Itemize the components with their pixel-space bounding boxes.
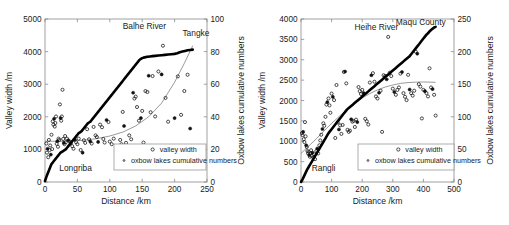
- scatter-point: [86, 128, 89, 131]
- scatter-point: [411, 94, 414, 97]
- y-axis-title: Valley width /m: [257, 72, 267, 129]
- x-axis-title: Distance /km: [101, 196, 151, 206]
- scatter-point: [320, 127, 323, 130]
- scatter-point: [186, 73, 189, 76]
- scatter-point: [334, 83, 337, 86]
- scatter-point: [147, 74, 150, 77]
- x-tick-label: 400: [416, 185, 430, 194]
- scatter-point: [47, 156, 50, 159]
- scatter-point: [318, 139, 321, 142]
- panel-balhe-river: 0501001502002500100020003000400050000204…: [0, 0, 255, 225]
- legend-label: oxbow lakes cumulative numbers: [131, 156, 237, 165]
- scatter-point: [394, 93, 397, 96]
- scatter-point: [301, 130, 304, 133]
- scatter-point: [325, 101, 328, 104]
- y-tick-label: 2000: [279, 97, 298, 106]
- legend-label: oxbow lakes cumulative numbers: [375, 156, 481, 165]
- scatter-point: [107, 120, 110, 123]
- scatter-point: [151, 75, 154, 78]
- x-tick-label: 100: [324, 185, 338, 194]
- scatter-point: [50, 133, 53, 136]
- scatter-point: [154, 115, 157, 118]
- dual-panel-river-figure: 0501001502002500100020003000400050000204…: [0, 0, 509, 225]
- y-tick-label: 1000: [279, 137, 298, 146]
- scatter-point: [54, 115, 57, 118]
- scatter-point: [160, 73, 163, 76]
- scatter-point: [372, 80, 375, 83]
- scatter-point: [180, 113, 183, 116]
- scatter-point: [389, 75, 392, 78]
- scatter-point: [326, 97, 329, 100]
- scatter-point: [400, 70, 403, 73]
- scatter-point: [62, 137, 65, 140]
- y2-tick-label: 250: [457, 15, 471, 24]
- scatter-point: [304, 135, 307, 138]
- valley-width-scatter: [45, 44, 192, 159]
- scatter-point: [132, 91, 135, 94]
- scatter-point: [415, 52, 418, 55]
- x-axis-title: Distance /km: [352, 196, 402, 206]
- scatter-point: [434, 114, 437, 117]
- scatter-point: [149, 111, 152, 114]
- y-tick-label: 1000: [23, 145, 42, 154]
- scatter-point: [119, 138, 122, 141]
- scatter-point: [56, 145, 59, 148]
- scatter-point: [58, 103, 61, 106]
- scatter-point: [173, 117, 176, 120]
- annotation-label: Tangke: [182, 28, 209, 38]
- scatter-point: [49, 153, 52, 156]
- y2-tick-label: 200: [457, 48, 471, 57]
- panel-heihe-river: 0100200300400500050010001500200025003000…: [255, 0, 509, 225]
- y2-axis-title: Oxbow lakes cumulative numbers: [236, 36, 246, 164]
- scatter-point: [333, 136, 336, 139]
- y-axis-title: Valley width /m: [4, 72, 14, 129]
- scatter-point: [61, 88, 64, 91]
- scatter-point: [332, 99, 335, 102]
- scatter-point: [343, 70, 346, 73]
- scatter-point: [420, 117, 423, 120]
- scatter-point: [368, 81, 371, 84]
- scatter-point: [142, 141, 145, 144]
- scatter-point: [406, 73, 409, 76]
- y-tick-label: 5000: [23, 15, 42, 24]
- scatter-point: [386, 35, 389, 38]
- scatter-point: [432, 93, 435, 96]
- scatter-point: [431, 88, 434, 91]
- scatter-point: [183, 90, 186, 93]
- chart-balhe-river: 0501001502002500100020003000400050000204…: [0, 0, 254, 225]
- scatter-point: [391, 87, 394, 90]
- y-tick-label: 500: [283, 158, 297, 167]
- legend-label: valley width: [160, 145, 197, 154]
- scatter-point: [401, 92, 404, 95]
- scatter-point: [353, 125, 356, 128]
- annotation-label: Rangli: [311, 163, 335, 173]
- scatter-point: [72, 147, 75, 150]
- y-tick-label: 3000: [23, 80, 42, 89]
- annotation-label: Longriba: [59, 163, 92, 173]
- scatter-point: [128, 134, 131, 137]
- x-tick-label: 0: [43, 185, 48, 194]
- scatter-point: [426, 95, 429, 98]
- scatter-point: [397, 86, 400, 89]
- scatter-point: [45, 151, 48, 154]
- annotation-label: Heihe River: [354, 22, 398, 32]
- y-tick-label: 4000: [23, 48, 42, 57]
- y-tick-label: 3000: [279, 56, 298, 65]
- y-tick-label: 3500: [279, 35, 298, 44]
- scatter-point: [344, 82, 347, 85]
- y2-tick-label: 40: [211, 113, 221, 122]
- y-tick-label: 1500: [279, 117, 298, 126]
- scatter-point: [403, 95, 406, 98]
- scatter-point: [189, 127, 192, 130]
- scatter-point: [365, 120, 368, 123]
- annotation-label: Balhe River: [123, 21, 167, 31]
- valley-width-trend-line: [45, 46, 193, 142]
- y2-tick-label: 150: [457, 80, 471, 89]
- scatter-point: [102, 137, 105, 140]
- scatter-point: [103, 141, 106, 144]
- scatter-point: [380, 130, 383, 133]
- scatter-point: [100, 126, 103, 129]
- scatter-point: [84, 141, 87, 144]
- y2-tick-label: 0: [211, 178, 216, 187]
- y2-tick-label: 20: [211, 145, 221, 154]
